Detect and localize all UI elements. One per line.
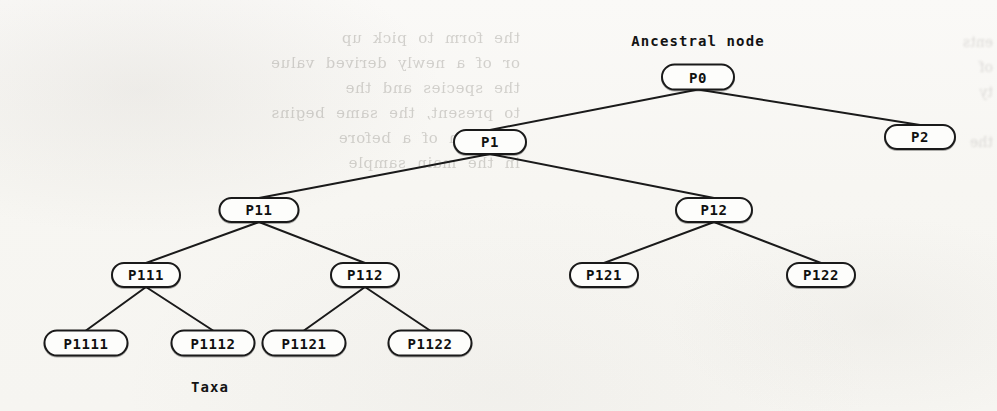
tree-edge-p12-p122: [714, 222, 821, 263]
edge-group: [86, 90, 920, 331]
tree-edge-p11-p111: [146, 222, 259, 263]
tree-diagram-page: the form to pick up or of a newly derive…: [0, 0, 997, 411]
tree-node-p2[interactable]: P2: [884, 124, 956, 150]
ancestral-node-label: Ancestral node: [631, 33, 764, 49]
tree-node-p0[interactable]: P0: [661, 64, 735, 91]
tree-edges: [0, 0, 997, 411]
tree-node-p11[interactable]: P11: [219, 197, 300, 223]
tree-node-p1[interactable]: P1: [453, 129, 527, 155]
tree-edge-p112-p1122: [365, 287, 430, 331]
tree-node-p112[interactable]: P112: [330, 262, 400, 288]
tree-node-p1121[interactable]: P1121: [262, 330, 347, 357]
tree-edge-p0-p2: [698, 90, 920, 126]
tree-node-p111[interactable]: P111: [111, 262, 181, 288]
tree-node-p1122[interactable]: P1122: [388, 330, 473, 357]
tree-node-p122[interactable]: P122: [786, 262, 856, 288]
tree-edge-p111-p1112: [146, 287, 213, 331]
tree-edge-p1-p12: [490, 154, 714, 198]
tree-node-p12[interactable]: P12: [675, 197, 753, 223]
tree-edge-p11-p112: [259, 222, 365, 263]
tree-edge-p112-p1121: [304, 287, 365, 331]
tree-edge-p12-p121: [604, 222, 714, 263]
tree-edge-p111-p1111: [86, 287, 146, 331]
tree-node-p121[interactable]: P121: [569, 262, 639, 288]
tree-edge-p0-p1: [490, 90, 698, 131]
taxa-label: Taxa: [191, 379, 229, 395]
tree-node-p1111[interactable]: P1111: [44, 330, 129, 357]
tree-edge-p1-p11: [259, 154, 490, 198]
tree-node-p1112[interactable]: P1112: [171, 330, 256, 357]
